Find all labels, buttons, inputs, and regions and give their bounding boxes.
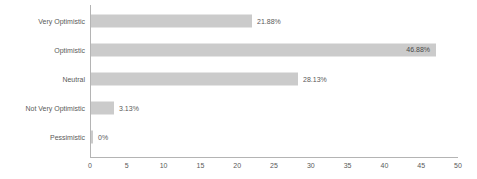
bar-wrapper: 0% <box>91 130 108 143</box>
bar-wrapper: 3.13% <box>91 101 139 114</box>
bar-value-label: 0% <box>98 132 108 141</box>
category-label: Pessimistic <box>50 132 85 141</box>
bar-wrapper: 28.13% <box>91 72 327 85</box>
x-tick-label: 35 <box>344 161 352 170</box>
bar-value-label: 21.88% <box>257 16 281 25</box>
x-tick-label: 40 <box>380 161 388 170</box>
bar-wrapper: 46.88% <box>91 43 436 56</box>
bar-row: Very Optimistic21.88% <box>0 6 477 35</box>
x-tick-label: 50 <box>454 161 462 170</box>
category-label: Not Very Optimistic <box>25 103 85 112</box>
x-tick-label: 5 <box>125 161 129 170</box>
bar-row: Not Very Optimistic3.13% <box>0 93 477 122</box>
category-label: Optimistic <box>54 45 85 54</box>
bar-row: Optimistic46.88% <box>0 35 477 64</box>
x-axis-line <box>90 157 458 158</box>
category-label: Very Optimistic <box>38 16 85 25</box>
bar <box>91 101 114 114</box>
bar <box>91 72 298 85</box>
bar-row: Neutral28.13% <box>0 64 477 93</box>
bar-value-label: 28.13% <box>303 74 327 83</box>
bar-row: Pessimistic0% <box>0 122 477 151</box>
x-tick-label: 10 <box>160 161 168 170</box>
category-label: Neutral <box>62 74 85 83</box>
x-tick-label: 30 <box>307 161 315 170</box>
bar-chart: Very Optimistic21.88%Optimistic46.88%Neu… <box>0 0 477 179</box>
x-tick-label: 0 <box>88 161 92 170</box>
bar <box>91 14 252 27</box>
bar-value-label: 46.88% <box>406 45 430 54</box>
bar-wrapper: 21.88% <box>91 14 281 27</box>
x-tick-label: 15 <box>196 161 204 170</box>
bar-value-label: 3.13% <box>119 103 139 112</box>
bar <box>91 43 436 56</box>
x-tick-label: 20 <box>233 161 241 170</box>
bar <box>91 130 93 143</box>
x-tick-label: 45 <box>417 161 425 170</box>
x-tick-label: 25 <box>270 161 278 170</box>
